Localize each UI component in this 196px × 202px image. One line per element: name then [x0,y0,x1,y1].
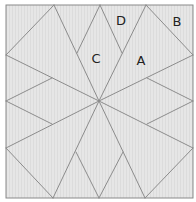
label-c: C [91,51,100,66]
label-b: B [173,14,182,29]
quilt-block-diagram: A B C D [0,0,196,202]
label-d: D [116,13,126,28]
label-a: A [137,53,146,68]
